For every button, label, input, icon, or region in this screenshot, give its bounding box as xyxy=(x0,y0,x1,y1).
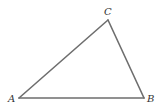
vertex-label-c: C xyxy=(104,6,112,17)
edge-b-c xyxy=(108,20,144,98)
vertex-label-b: B xyxy=(146,93,154,104)
triangle-diagram: A B C xyxy=(0,0,159,108)
edge-c-a xyxy=(19,20,108,98)
vertex-label-a: A xyxy=(7,93,15,104)
